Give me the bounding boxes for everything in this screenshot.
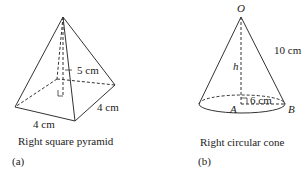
figure-a-tag: (a): [12, 156, 24, 167]
cone-center-label: A: [230, 104, 237, 115]
pyramid-side-front-label: 4 cm: [33, 119, 55, 130]
cone-edge-point-label: B: [288, 104, 295, 115]
pyramid-caption: Right square pyramid: [18, 136, 113, 147]
cone-height-label: h: [233, 61, 239, 72]
cone-slant-label: 10 cm: [274, 45, 301, 56]
pyramid-side-right-label: 4 cm: [97, 102, 119, 113]
pyramid-height-label: 5 cm: [77, 65, 99, 76]
cone-radius-label: 6 cm: [250, 95, 272, 106]
cone-apex-label: O: [237, 3, 245, 14]
cone-caption: Right circular cone: [200, 137, 284, 148]
cone-figure: [199, 17, 285, 113]
figure-b-tag: (b): [198, 156, 211, 167]
